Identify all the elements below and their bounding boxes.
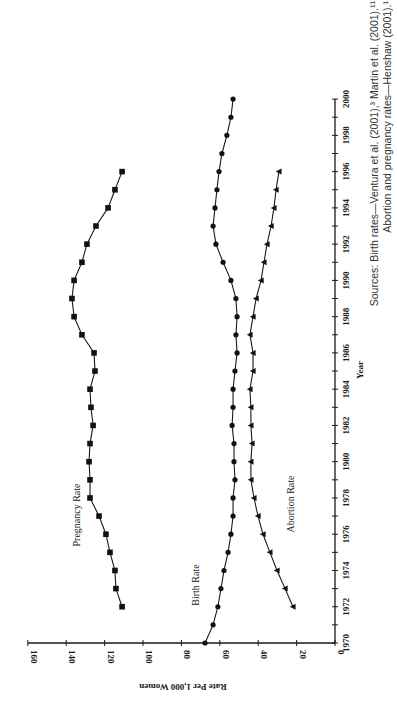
circle-marker-icon bbox=[228, 278, 233, 283]
triangle-marker-icon bbox=[290, 604, 296, 610]
circle-marker-icon bbox=[220, 260, 225, 265]
rate-tick-label: 20 bbox=[298, 650, 308, 660]
circle-marker-icon bbox=[215, 604, 220, 609]
rate-tick-label: 80 bbox=[182, 650, 192, 660]
y-axis-title: Rate Per 1,000 Women bbox=[139, 682, 227, 692]
year-tick-label: 1986 bbox=[341, 343, 351, 362]
circle-marker-icon bbox=[231, 459, 236, 464]
circle-marker-icon bbox=[230, 387, 235, 392]
square-marker-icon bbox=[87, 441, 93, 447]
source-note-line2: Abortion and pregnancy rates—Henshaw (20… bbox=[381, 1, 393, 233]
circle-marker-icon bbox=[219, 151, 224, 156]
circle-marker-icon bbox=[228, 115, 233, 120]
circle-marker-icon bbox=[230, 495, 235, 500]
square-marker-icon bbox=[112, 187, 118, 193]
circle-marker-icon bbox=[225, 550, 230, 555]
square-marker-icon bbox=[119, 604, 125, 610]
circle-marker-icon bbox=[224, 133, 229, 138]
square-marker-icon bbox=[88, 405, 94, 411]
circle-marker-icon bbox=[230, 513, 235, 518]
circle-marker-icon bbox=[231, 441, 236, 446]
circle-marker-icon bbox=[234, 314, 239, 319]
series-layer bbox=[69, 97, 295, 646]
circle-marker-icon bbox=[202, 640, 207, 645]
circle-marker-icon bbox=[233, 296, 238, 301]
square-marker-icon bbox=[96, 513, 102, 519]
circle-marker-icon bbox=[233, 332, 238, 337]
circle-marker-icon bbox=[214, 187, 219, 192]
year-tick-label: 2000 bbox=[341, 90, 351, 109]
square-marker-icon bbox=[87, 386, 93, 392]
abortion-rate-label: Abortion Rate bbox=[285, 475, 296, 532]
year-tick-label: 1990 bbox=[341, 271, 351, 290]
rate-tick-label: 100 bbox=[144, 650, 154, 664]
square-marker-icon bbox=[79, 259, 85, 265]
square-marker-icon bbox=[71, 314, 77, 320]
square-marker-icon bbox=[71, 278, 77, 284]
year-tick-label: 1984 bbox=[341, 380, 351, 399]
circle-marker-icon bbox=[232, 368, 237, 373]
circle-marker-icon bbox=[218, 586, 223, 591]
x-axis-title: Year bbox=[355, 361, 365, 379]
square-marker-icon bbox=[84, 241, 90, 247]
abortion-rate-line bbox=[250, 172, 293, 607]
triangle-marker-icon bbox=[282, 586, 288, 592]
year-tick-label: 1972 bbox=[341, 597, 351, 616]
square-marker-icon bbox=[119, 169, 125, 175]
year-tick-label: 1992 bbox=[341, 235, 351, 254]
circle-marker-icon bbox=[232, 477, 237, 482]
year-tick-label: 1978 bbox=[341, 488, 351, 507]
triangle-marker-icon bbox=[247, 332, 253, 338]
year-tick-label: 1976 bbox=[341, 525, 351, 544]
year-tick-label: 1970 bbox=[341, 634, 351, 653]
pregnancy-rate-label: Pregnancy Rate bbox=[71, 483, 82, 547]
year-tick-label: 1994 bbox=[341, 198, 351, 217]
square-marker-icon bbox=[79, 332, 85, 338]
rate-tick-label: 120 bbox=[106, 650, 116, 664]
birth-rate-line bbox=[205, 99, 237, 643]
square-marker-icon bbox=[87, 495, 93, 501]
square-marker-icon bbox=[90, 423, 96, 429]
square-marker-icon bbox=[113, 586, 119, 592]
square-marker-icon bbox=[105, 205, 111, 211]
rate-tick-label: 160 bbox=[29, 650, 39, 664]
circle-marker-icon bbox=[212, 205, 217, 210]
source-note-line1: Sources: Birth rates—Ventura et al. (200… bbox=[368, 1, 380, 307]
year-tick-label: 1980 bbox=[341, 452, 351, 471]
circle-marker-icon bbox=[234, 350, 239, 355]
square-marker-icon bbox=[103, 531, 109, 537]
rate-tick-label: 40 bbox=[259, 650, 269, 660]
circle-marker-icon bbox=[229, 423, 234, 428]
birth-rate-label: Birth Rate bbox=[190, 564, 201, 606]
circle-marker-icon bbox=[228, 532, 233, 537]
circle-marker-icon bbox=[213, 242, 218, 247]
circle-marker-icon bbox=[210, 622, 215, 627]
year-tick-label: 1996 bbox=[341, 162, 351, 181]
square-marker-icon bbox=[112, 568, 118, 574]
square-marker-icon bbox=[93, 223, 99, 229]
year-tick-label: 1974 bbox=[341, 561, 351, 580]
rate-tick-label: 60 bbox=[221, 650, 231, 660]
rotated-line-chart: 0204060801001201401601970197219741976197… bbox=[0, 0, 397, 703]
year-tick-label: 1988 bbox=[341, 307, 351, 326]
square-marker-icon bbox=[107, 550, 113, 556]
square-marker-icon bbox=[91, 350, 97, 356]
square-marker-icon bbox=[87, 477, 93, 483]
square-marker-icon bbox=[86, 459, 92, 465]
square-marker-icon bbox=[92, 368, 98, 374]
rate-tick-label: 140 bbox=[67, 650, 77, 664]
year-tick-label: 1998 bbox=[341, 126, 351, 145]
circle-marker-icon bbox=[230, 405, 235, 410]
circle-marker-icon bbox=[221, 568, 226, 573]
circle-marker-icon bbox=[216, 169, 221, 174]
year-tick-label: 1982 bbox=[341, 416, 351, 435]
square-marker-icon bbox=[69, 296, 75, 302]
circle-marker-icon bbox=[230, 97, 235, 102]
circle-marker-icon bbox=[210, 223, 215, 228]
